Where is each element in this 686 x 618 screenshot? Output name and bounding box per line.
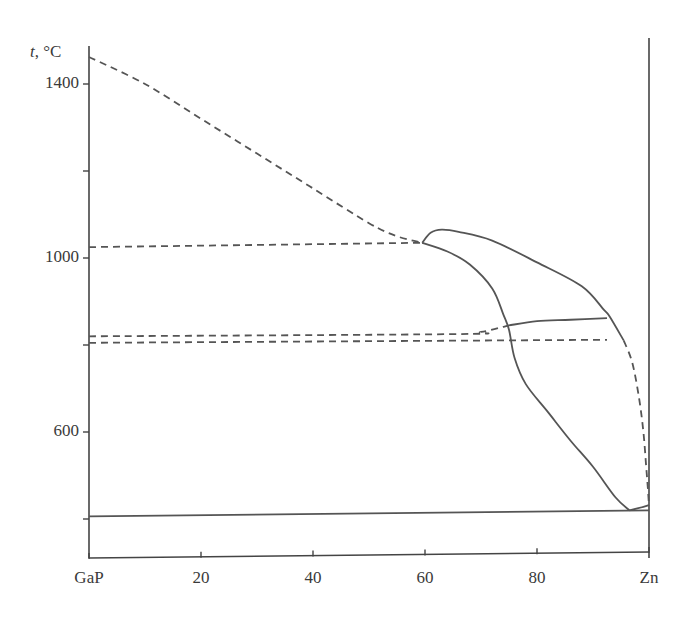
y-ticks [83, 84, 89, 519]
axes [89, 38, 649, 558]
series-metastable-horizontal-1035 [89, 243, 422, 247]
x-tick-label: Zn [619, 568, 679, 588]
series-metastable-horizontal-805 [89, 340, 607, 343]
series-eutectic-horizontal-420 [89, 510, 649, 516]
series-tie-line-850 [509, 318, 607, 325]
x-tick-label: GaP [59, 568, 119, 588]
phase-diagram-chart [0, 0, 686, 618]
x-tick-label: 20 [171, 568, 231, 588]
x-tick-label: 60 [395, 568, 455, 588]
y-axis-unit: , °C [35, 42, 62, 61]
series-liquidus-Zn-side [624, 341, 649, 506]
y-tick-label: 1000 [19, 247, 79, 267]
data-series [89, 57, 649, 516]
y-tick-label: 600 [19, 421, 79, 441]
series-upper-dome [422, 230, 624, 341]
y-tick-label: 1400 [19, 73, 79, 93]
series-metastable-horizontal-820 [89, 325, 509, 336]
x-tick-label: 80 [507, 568, 567, 588]
series-liquidus-GaP-side [89, 57, 422, 243]
y-axis-title: t, °C [30, 42, 61, 62]
x-axis [89, 552, 649, 558]
series-lower-dome-and-solvus [422, 243, 629, 511]
x-tick-label: 40 [283, 568, 343, 588]
